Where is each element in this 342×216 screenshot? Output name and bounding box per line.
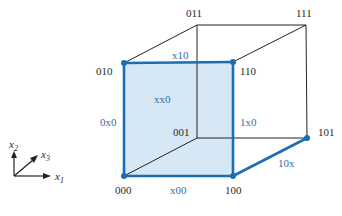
vertex-label-101: 101	[318, 126, 335, 138]
vertex-010-dot	[121, 60, 127, 66]
edge-111-101	[306, 25, 307, 138]
vertex-label-110: 110	[240, 65, 257, 77]
vertex-label-001: 001	[173, 126, 190, 138]
edge-label-x10: x10	[172, 49, 189, 61]
vertex-label-011: 011	[186, 7, 202, 19]
axis-x3-line	[14, 160, 33, 176]
edge-010-110	[124, 62, 233, 63]
edge-label-1x0: 1x0	[240, 116, 257, 128]
edge-label-0x0: 0x0	[100, 116, 117, 128]
vertex-label-010: 010	[96, 65, 113, 77]
vertex-110-dot	[230, 59, 236, 65]
vertex-label-100: 100	[225, 184, 242, 196]
edge-110-111	[233, 25, 306, 62]
face-label-xx0: xx0	[154, 93, 171, 105]
axis-x1-arrow-icon	[43, 173, 51, 179]
axis-label-x3: x3	[40, 148, 50, 163]
cube-diagram: 011 111 010 110 001 101 000 100 x10 xx0 …	[0, 0, 342, 216]
face-xx0	[124, 62, 233, 176]
vertex-101-dot	[304, 135, 310, 141]
edge-label-x00: x00	[170, 184, 187, 196]
vertex-000-dot	[121, 173, 127, 179]
vertex-label-000: 000	[115, 184, 132, 196]
axis-label-x2: x2	[8, 138, 18, 153]
edge-100-101	[233, 138, 307, 176]
vertex-100-dot	[230, 173, 236, 179]
edge-label-10x: 10x	[278, 157, 295, 169]
axis-label-x1: x1	[54, 170, 64, 185]
vertex-label-111: 111	[296, 7, 312, 19]
